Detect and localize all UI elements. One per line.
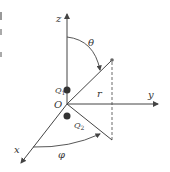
- cropped-text-fragments: [0, 12, 2, 57]
- charge-q2-label: Q2: [74, 121, 85, 131]
- theta-label: θ: [88, 37, 94, 48]
- y-axis-label: y: [147, 89, 154, 100]
- point-p: [110, 58, 114, 62]
- spherical-coordinate-diagram: z y x O r θ φ Q1 Q2: [0, 0, 170, 172]
- theta-arc: [67, 37, 100, 70]
- z-axis-label: z: [55, 13, 62, 24]
- radius-label: r: [97, 88, 103, 99]
- radius-line: [67, 60, 112, 104]
- charge-q2: [64, 113, 71, 120]
- origin-label: O: [54, 99, 62, 110]
- x-axis-label: x: [14, 144, 20, 155]
- phi-arc: [33, 134, 100, 147]
- charge-q1-label: Q1: [55, 86, 65, 96]
- phi-label: φ: [58, 149, 65, 160]
